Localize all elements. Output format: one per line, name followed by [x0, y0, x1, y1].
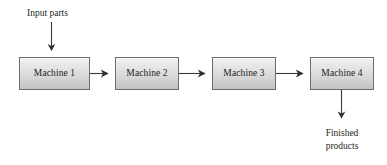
- input-parts-label: Input parts: [27, 7, 68, 20]
- finished-products-label: Finished products: [310, 127, 374, 153]
- machine-node-2-label: Machine 2: [126, 69, 167, 79]
- finished-products-line-1: Finished: [310, 127, 374, 140]
- finished-products-line-2: products: [310, 140, 374, 153]
- production-line-diagram: Input parts Machine 1 Machine 2 Machine …: [0, 0, 387, 165]
- machine-node-4[interactable]: Machine 4: [310, 57, 374, 90]
- machine-node-2[interactable]: Machine 2: [115, 57, 179, 90]
- machine-node-1-label: Machine 1: [34, 69, 75, 79]
- machine-node-1[interactable]: Machine 1: [19, 57, 90, 90]
- machine-node-4-label: Machine 4: [321, 69, 362, 79]
- machine-node-3[interactable]: Machine 3: [212, 57, 276, 90]
- machine-node-3-label: Machine 3: [223, 69, 264, 79]
